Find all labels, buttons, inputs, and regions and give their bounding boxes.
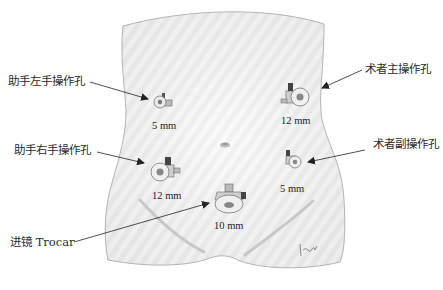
size-surgeon-main-port: 12 mm [281, 116, 310, 127]
arrow-surgeon-main [322, 70, 362, 88]
label-surgeon-main-port: 术者主操作孔 [365, 64, 431, 76]
size-assistant-left-port: 5 mm [152, 121, 176, 132]
label-scope-trocar: 进镜 Trocar [10, 237, 75, 249]
size-surgeon-secondary-port: 5 mm [280, 184, 304, 195]
trocar-placement-diagram: 助手左手操作孔 5 mm 术者主操作孔 12 mm 助手右手操作孔 12 mm … [0, 0, 443, 290]
label-assistant-right-port: 助手右手操作孔 [14, 145, 91, 157]
size-scope-trocar: 10 mm [214, 221, 243, 232]
size-assistant-right-port: 12 mm [152, 191, 181, 202]
label-surgeon-secondary-port: 术者副操作孔 [373, 139, 439, 151]
label-assistant-left-port: 助手左手操作孔 [8, 76, 85, 88]
